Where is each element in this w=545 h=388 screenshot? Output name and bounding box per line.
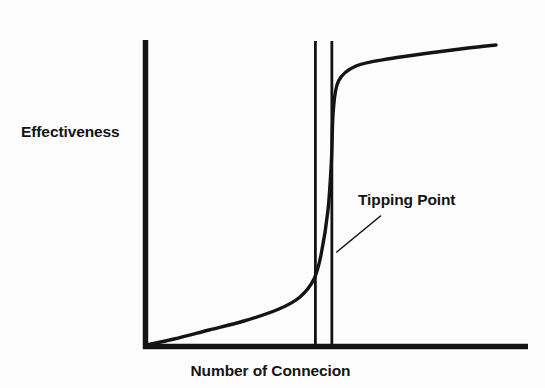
chart-container: Effectiveness Number of Connecion Tippin… [0, 0, 545, 388]
x-axis-label-wrapper: Number of Connecion [0, 362, 545, 380]
x-axis-label: Number of Connecion [191, 362, 351, 380]
chart-plot-area [0, 0, 545, 388]
tipping-point-annotation-label: Tipping Point [358, 191, 455, 209]
tipping-point-leader-line [337, 216, 381, 252]
y-axis-label: Effectiveness [21, 123, 120, 141]
